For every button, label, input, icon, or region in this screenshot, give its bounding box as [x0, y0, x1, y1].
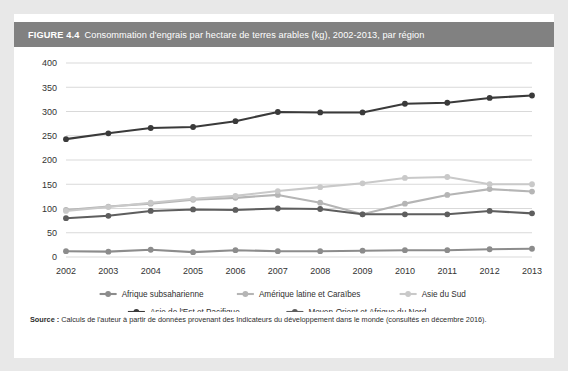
data-point — [529, 246, 535, 252]
data-point — [529, 189, 535, 195]
legend-label: Afrique subsaharienne — [122, 290, 204, 299]
data-point — [63, 248, 69, 254]
data-point — [402, 101, 408, 107]
data-point — [402, 175, 408, 181]
data-point — [190, 207, 196, 213]
data-point — [529, 210, 535, 216]
data-point — [148, 208, 154, 214]
data-point — [317, 200, 323, 206]
data-point — [487, 208, 493, 214]
x-axis-tick-label: 2012 — [480, 266, 500, 276]
y-axis-tick-label: 200 — [42, 155, 57, 165]
data-point — [360, 110, 366, 116]
legend-item[interactable]: Asie de l'Est et Pacifique — [128, 308, 240, 312]
legend-swatch-marker — [105, 291, 111, 297]
x-axis-tick-label: 2011 — [438, 266, 457, 276]
data-point — [402, 211, 408, 217]
legend-label: Amérique latine et Caraïbes — [259, 290, 361, 299]
legend-swatch-marker — [242, 291, 248, 297]
y-axis-tick-label: 350 — [42, 83, 57, 93]
y-axis-tick-label: 50 — [47, 228, 57, 238]
data-point — [105, 204, 111, 210]
series-line — [66, 249, 532, 252]
data-point — [190, 124, 196, 130]
series-line — [66, 95, 532, 139]
x-axis-tick-label: 2013 — [522, 266, 542, 276]
y-axis-tick-label: 300 — [42, 107, 57, 117]
x-axis-tick-label: 2007 — [268, 266, 288, 276]
series-0 — [63, 246, 535, 255]
data-point — [529, 93, 535, 99]
data-point — [317, 248, 323, 254]
data-point — [105, 130, 111, 136]
figure-card: FIGURE 4.4 Consommation d'engrais par he… — [14, 14, 554, 358]
legend-swatch-marker — [292, 309, 298, 312]
data-point — [148, 125, 154, 131]
data-point — [275, 206, 281, 212]
legend-swatch-marker — [133, 309, 139, 312]
x-axis-tick-label: 2004 — [141, 266, 161, 276]
data-point — [233, 207, 239, 213]
data-point — [190, 249, 196, 255]
data-point — [360, 180, 366, 186]
data-point — [233, 193, 239, 199]
data-point — [487, 246, 493, 252]
data-point — [148, 247, 154, 253]
chart-plot-area: 050100150200250300350400 200220032004200… — [14, 47, 554, 312]
legend-label: Asie du Sud — [422, 290, 467, 299]
source-note: Source : Calculs de l'auteur à partir de… — [30, 314, 542, 325]
series-line — [66, 189, 532, 214]
x-axis-tick-label: 2003 — [98, 266, 118, 276]
data-point — [190, 196, 196, 202]
legend-item[interactable]: Moyen-Orient et Afrique du Nord — [286, 308, 426, 312]
source-text: Calculs de l'auteur à partir de données … — [59, 315, 486, 324]
data-point — [444, 192, 450, 198]
y-axis-tick-label: 250 — [42, 131, 57, 141]
gridlines — [66, 63, 532, 257]
data-point — [63, 215, 69, 221]
y-axis-labels: 050100150200250300350400 — [42, 58, 57, 262]
data-point — [402, 201, 408, 207]
data-point — [148, 200, 154, 206]
data-point — [317, 206, 323, 212]
figure-number: FIGURE 4.4 — [28, 30, 80, 40]
legend-item[interactable]: Amérique latine et Caraïbes — [237, 290, 361, 299]
legend-item[interactable]: Afrique subsaharienne — [100, 290, 204, 299]
data-point — [105, 213, 111, 219]
data-point — [444, 211, 450, 217]
legend-label: Asie de l'Est et Pacifique — [150, 308, 240, 312]
data-point — [105, 249, 111, 255]
data-point — [360, 248, 366, 254]
series-line — [66, 209, 532, 219]
chart-legend: Afrique subsaharienneAmérique latine et … — [100, 290, 467, 312]
source-label: Source : — [30, 315, 59, 324]
series-line — [66, 177, 532, 211]
figure-header: FIGURE 4.4 Consommation d'engrais par he… — [14, 22, 554, 47]
x-axis-tick-label: 2002 — [56, 266, 76, 276]
y-axis-tick-label: 400 — [42, 58, 57, 68]
legend-item[interactable]: Asie du Sud — [400, 290, 467, 299]
legend-label: Moyen-Orient et Afrique du Nord — [308, 308, 426, 312]
y-axis-tick-label: 0 — [52, 252, 57, 262]
x-axis-tick-label: 2006 — [225, 266, 245, 276]
series-3 — [63, 93, 535, 142]
data-point — [233, 118, 239, 124]
y-axis-tick-label: 100 — [42, 204, 57, 214]
data-point — [275, 248, 281, 254]
data-point — [444, 100, 450, 106]
x-axis-labels: 2002200320042005200620072008200920102011… — [56, 266, 542, 276]
data-point — [529, 181, 535, 187]
data-point — [63, 136, 69, 142]
data-point — [402, 247, 408, 253]
legend-swatch-marker — [405, 291, 411, 297]
data-point — [487, 181, 493, 187]
data-point — [317, 184, 323, 190]
data-point — [233, 247, 239, 253]
data-point — [275, 109, 281, 115]
y-axis-tick-label: 150 — [42, 180, 57, 190]
data-point — [63, 208, 69, 214]
data-point — [444, 174, 450, 180]
x-axis-tick-label: 2010 — [395, 266, 415, 276]
line-chart: 050100150200250300350400 200220032004200… — [14, 47, 554, 312]
data-point — [444, 247, 450, 253]
